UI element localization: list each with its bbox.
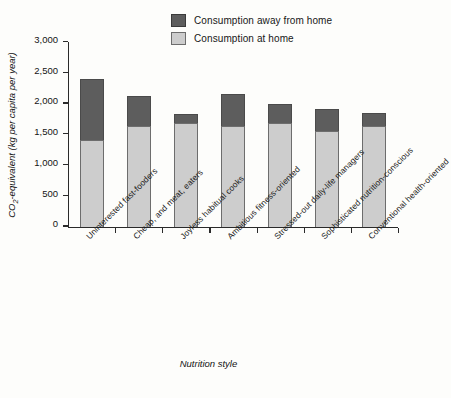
x-axis-tick — [351, 228, 352, 233]
y-axis-tick-label: 2,500 — [34, 65, 58, 76]
bar-stack[interactable] — [268, 104, 292, 227]
y-axis-tick: 500 — [63, 195, 68, 196]
bar-segment-away-from-home[interactable] — [268, 104, 292, 123]
x-axis-tick — [398, 228, 399, 233]
x-axis-tick — [209, 228, 210, 233]
x-axis-tick — [304, 228, 305, 233]
bar-segment-away-from-home[interactable] — [221, 94, 245, 126]
y-axis-tick: 1,500 — [63, 133, 68, 134]
bar-stack[interactable] — [315, 109, 339, 227]
legend-swatch-icon-away — [171, 14, 186, 27]
bar-stack[interactable] — [221, 94, 245, 227]
y-axis-tick-label: 1,500 — [34, 126, 58, 137]
y-axis-title-prefix: CO — [6, 204, 17, 218]
y-axis-tick: 2,000 — [63, 102, 68, 103]
bar-segment-away-from-home[interactable] — [315, 109, 339, 131]
legend-label-away: Consumption away from home — [194, 15, 332, 26]
x-axis-tick — [162, 228, 163, 233]
bar-segment-at-home[interactable] — [80, 140, 104, 226]
bar-stack[interactable] — [80, 79, 104, 227]
y-axis-tick: 2,500 — [63, 72, 68, 73]
x-axis-tick — [257, 228, 258, 233]
y-axis-title: CO2-equivalent (kg per capita per year) — [6, 42, 20, 228]
y-axis-tick: 3,000 — [63, 41, 68, 42]
bar-segment-away-from-home[interactable] — [174, 114, 198, 123]
y-axis-tick-label: 1,000 — [34, 157, 58, 168]
y-axis-title-suffix: -equivalent (kg per capita per year) — [6, 52, 17, 199]
y-axis-tick: 1,000 — [63, 164, 68, 165]
y-axis-tick-label: 2,000 — [34, 95, 58, 106]
y-axis-tick-label: 0 — [53, 218, 58, 229]
legend-item-away-from-home: Consumption away from home — [171, 14, 332, 27]
bar-segment-away-from-home[interactable] — [127, 96, 151, 126]
y-axis-line — [68, 42, 69, 228]
x-axis-title: Nutrition style — [0, 358, 417, 369]
y-axis-title-subscript: 2 — [11, 200, 20, 204]
y-axis-tick: 0 — [63, 225, 68, 226]
bar-stack[interactable] — [127, 96, 151, 226]
y-axis-tick-label: 3,000 — [34, 34, 58, 45]
y-axis-tick-label: 500 — [42, 188, 58, 199]
bar-segment-away-from-home[interactable] — [80, 79, 104, 141]
chart-legend: Consumption away from home Consumption a… — [171, 14, 332, 45]
bar-segment-away-from-home[interactable] — [362, 113, 386, 126]
x-axis-tick — [115, 228, 116, 233]
